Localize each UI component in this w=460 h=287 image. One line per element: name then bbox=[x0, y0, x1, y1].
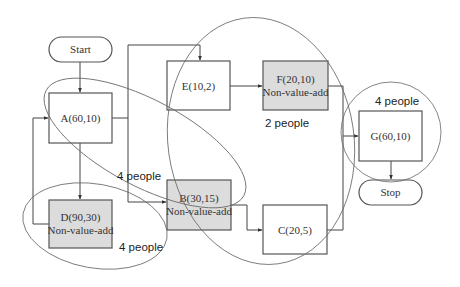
node-b: B(30,15) Non-value-add bbox=[166, 180, 232, 230]
node-f-label: F(20,10) bbox=[276, 73, 315, 86]
group-ellipse-efc bbox=[152, 5, 371, 276]
node-g-label: G(60,10) bbox=[370, 130, 410, 143]
node-a-label: A(60,10) bbox=[60, 112, 100, 125]
process-flowchart: Start Stop A(60,10) E(10,2) F(20,10) Non… bbox=[0, 0, 460, 287]
node-d-category: Non-value-add bbox=[48, 224, 114, 236]
group-label-g: 4 people bbox=[375, 95, 419, 107]
node-c-label: C(20,5) bbox=[278, 224, 312, 237]
group-label-d: 4 people bbox=[119, 241, 163, 253]
edge-c-g bbox=[327, 136, 343, 230]
node-f-category: Non-value-add bbox=[263, 86, 329, 98]
node-e-label: E(10,2) bbox=[182, 80, 216, 93]
edge-b-c bbox=[231, 205, 262, 230]
node-f: F(20,10) Non-value-add bbox=[263, 61, 329, 110]
terminal-stop: Stop bbox=[359, 180, 422, 205]
group-label-ab: 4 people bbox=[117, 170, 161, 182]
group-label-efc: 2 people bbox=[265, 117, 309, 129]
terminal-start: Start bbox=[49, 37, 112, 62]
node-a: A(60,10) bbox=[49, 93, 112, 143]
edge-d-a bbox=[33, 118, 49, 224]
terminal-stop-label: Stop bbox=[380, 186, 401, 198]
node-g: G(60,10) bbox=[359, 111, 422, 161]
node-d: D(90,30) Non-value-add bbox=[48, 200, 114, 248]
node-b-label: B(30,15) bbox=[179, 192, 219, 205]
node-e: E(10,2) bbox=[167, 61, 230, 110]
edge-a-b bbox=[128, 118, 166, 202]
terminal-start-label: Start bbox=[70, 43, 91, 55]
node-d-label: D(90,30) bbox=[60, 211, 100, 224]
node-c: C(20,5) bbox=[263, 205, 327, 254]
